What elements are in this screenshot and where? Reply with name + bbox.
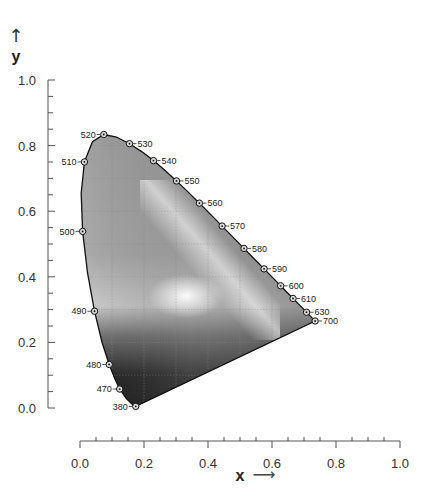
x-tick-label: 0.8 (327, 456, 345, 471)
x-tick-label: 0.4 (199, 456, 217, 471)
wavelength-label: 520 (81, 130, 96, 140)
wavelength-label: 500 (60, 227, 75, 237)
wavelength-label: 700 (323, 316, 338, 326)
wavelength-label: 580 (252, 244, 267, 254)
wavelength-marker-500: 500 (60, 227, 86, 237)
wavelength-marker-380: 380 (113, 402, 139, 412)
wavelength-label: 550 (185, 176, 200, 186)
y-axis-title: y (12, 48, 21, 65)
wavelength-marker-490: 490 (71, 306, 97, 316)
wavelength-label: 540 (161, 156, 176, 166)
wavelength-label: 590 (272, 264, 287, 274)
wavelength-marker-470: 470 (97, 384, 123, 394)
y-axis-arrow: ↑ (8, 25, 23, 46)
wavelength-label: 610 (301, 294, 316, 304)
wavelength-label: 560 (207, 198, 222, 208)
wavelength-label: 470 (97, 384, 112, 394)
x-axis-title: x (236, 467, 245, 484)
x-axis: 0.00.20.40.60.81.0 x ⟶ (71, 437, 409, 484)
wavelength-marker-480: 480 (86, 360, 112, 370)
wavelength-label: 600 (289, 281, 304, 291)
chromaticity-chart: ↑ y 0.00.20.40.60.81.0 0.00.20.40.60.81.… (0, 0, 424, 493)
y-tick-label: 0.8 (18, 139, 36, 154)
wavelength-label: 510 (61, 157, 76, 167)
wavelength-label: 530 (138, 139, 153, 149)
wavelength-label: 570 (230, 221, 245, 231)
y-tick-label: 0.2 (18, 335, 36, 350)
wavelength-label: 490 (71, 306, 86, 316)
wavelength-label: 380 (113, 402, 128, 412)
y-tick-label: 0.4 (18, 270, 36, 285)
y-tick-label: 0.0 (18, 401, 36, 416)
y-tick-label: 0.6 (18, 204, 36, 219)
x-tick-label: 0.0 (71, 456, 89, 471)
x-tick-label: 0.2 (135, 456, 153, 471)
wavelength-label: 480 (86, 360, 101, 370)
wavelength-marker-700: 700 (312, 316, 338, 326)
x-tick-label: 1.0 (391, 456, 409, 471)
x-axis-arrow: ⟶ (253, 465, 276, 484)
y-tick-label: 1.0 (18, 73, 36, 88)
y-axis: ↑ y 0.00.20.40.60.81.0 (8, 25, 55, 416)
